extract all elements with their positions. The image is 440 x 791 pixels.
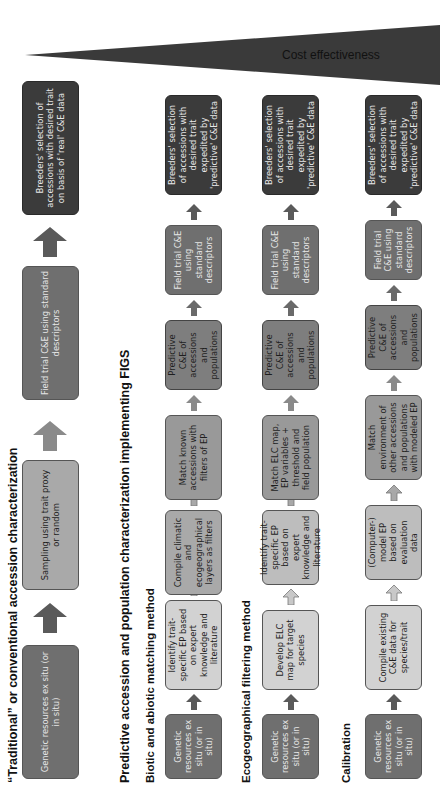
method-heading-ecogeographical: Ecogeographical filtering method — [240, 600, 252, 783]
step-label: Predictive C&E of accessions and populat… — [264, 325, 317, 385]
arrow-right-icon — [283, 694, 299, 710]
step-label: Identify trait-specific EP based on expe… — [259, 515, 322, 580]
arrow-right-icon — [33, 421, 67, 451]
step-predictive-ce: Predictive C&E of accessions and populat… — [365, 305, 422, 370]
step-predictive-ce: Predictive C&E of accessions and populat… — [165, 320, 222, 390]
arrow-right-icon — [283, 589, 299, 605]
step-compile-layers: Compile climatic and ecogeographical lay… — [165, 510, 222, 595]
step-genetic-resources: Genetic resources ex situ (or in situ) — [165, 714, 222, 779]
step-field-trial: Field trial C&E using standard descripto… — [22, 266, 79, 400]
step-genetic-resources: Genetic resources ex situ (or in situ) — [22, 645, 79, 779]
arrow-right-icon — [283, 395, 299, 411]
step-label: Breeders' selection of accessions with d… — [35, 86, 67, 210]
arrow-right-icon — [386, 200, 402, 216]
arrow-right-icon — [386, 585, 402, 601]
arrow-right-icon — [186, 694, 202, 710]
step-label: Field trial C&E using standard descripto… — [270, 230, 312, 290]
step-match-accessions: Match known accessions with filters of E… — [165, 415, 222, 500]
step-label: Genetic resources ex situ (or in situ) — [40, 650, 61, 774]
step-label: Predictive C&E of accessions and populat… — [367, 310, 420, 365]
step-label: Compile climatic and ecogeographical lay… — [173, 515, 215, 590]
arrow-right-icon — [186, 204, 202, 220]
arrow-right-icon — [386, 694, 402, 710]
arrow-right-icon — [386, 285, 402, 301]
step-label: Breeders' selection of accessions with d… — [264, 100, 317, 190]
step-sampling: Sampling using trait proxy or random — [22, 460, 79, 590]
arrow-right-icon — [386, 485, 402, 501]
step-label: Match ELC map, EP variables + threshold … — [270, 420, 312, 495]
arrow-right-icon — [386, 375, 402, 391]
step-label: Identify trait-specific EP based on expe… — [167, 605, 220, 685]
method-heading-calibration: Calibration — [340, 723, 352, 783]
step-identify-ep: Identify trait-specific EP based on expe… — [165, 600, 222, 690]
flow-diagram: “Traditional” or conventional accession … — [0, 0, 440, 791]
step-label: Predictive C&E of accessions and populat… — [167, 325, 220, 385]
arrow-right-icon — [33, 603, 67, 633]
cost-effectiveness-wedge — [0, 0, 440, 90]
arrow-right-icon — [283, 204, 299, 220]
cost-effectiveness-label: Cost effectiveness — [282, 48, 380, 62]
step-breeders-selection: Breeders' selection of accessions with d… — [262, 95, 319, 195]
step-field-trial: Field trial C&E using standard descripto… — [262, 225, 319, 295]
step-label: Genetic resources ex situ (or in situ) — [373, 719, 415, 774]
step-label: Breeders' selection of accessions with d… — [367, 100, 420, 190]
step-label: Match environment of other accessions an… — [367, 400, 420, 475]
step-breeders-selection: Breeders' selection of accessions with d… — [22, 81, 79, 215]
step-label: Match known accessions with filters of E… — [178, 420, 210, 495]
method-heading-biotic: Biotic and abiotic matching method — [144, 588, 156, 783]
step-predictive-ce: Predictive C&E of accessions and populat… — [262, 320, 319, 390]
step-model-ep: (Computer-) model EP based on evaluation… — [365, 505, 422, 580]
arrow-right-icon — [186, 395, 202, 411]
traditional-heading: “Traditional” or conventional accession … — [6, 447, 20, 783]
arrow-right-icon — [33, 227, 67, 257]
step-compile-existing-data: Compile existing C&E data for species/tr… — [365, 605, 422, 690]
step-match-elc-map: Match ELC map, EP variables + threshold … — [262, 415, 319, 500]
step-label: Breeders' selection of accessions with d… — [167, 100, 220, 190]
step-identify-ep: Identify trait-specific EP based on expe… — [262, 510, 319, 585]
step-label: (Computer-) model EP based on evaluation… — [367, 510, 420, 575]
step-breeders-selection: Breeders' selection of accessions with d… — [165, 95, 222, 195]
step-field-trial: Field trial C&E using standard descripto… — [365, 220, 422, 280]
step-breeders-selection: Breeders' selection of accessions with d… — [365, 95, 422, 195]
step-develop-elc-map: Develop ELC map for target species — [262, 610, 319, 690]
predictive-heading: Predictive accession and population char… — [118, 350, 132, 783]
step-label: Sampling using trait proxy or random — [40, 465, 61, 585]
step-field-trial: Field trial C&E using standard descripto… — [165, 225, 222, 295]
step-label: Field trial C&E using standard descripto… — [373, 225, 415, 275]
step-genetic-resources: Genetic resources ex situ (or in situ) — [365, 714, 422, 779]
step-label: Field trial C&E using standard descripto… — [40, 271, 61, 395]
step-label: Field trial C&E using standard descripto… — [173, 230, 215, 290]
arrow-right-icon — [186, 300, 202, 316]
step-label: Genetic resources ex situ (or in situ) — [270, 719, 312, 774]
step-label: Compile existing C&E data for species/tr… — [378, 610, 410, 685]
step-label: Develop ELC map for target species — [275, 615, 307, 685]
step-label: Genetic resources ex situ (or in situ) — [173, 719, 215, 774]
step-match-environment: Match environment of other accessions an… — [365, 395, 422, 480]
arrow-right-icon — [283, 300, 299, 316]
step-genetic-resources: Genetic resources ex situ (or in situ) — [262, 714, 319, 779]
